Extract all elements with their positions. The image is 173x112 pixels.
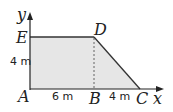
point-label-B: B [88,89,101,108]
dimension-AE: 4 m [10,55,31,68]
x-axis-label: x [153,89,162,108]
point-label-C: C [136,89,148,108]
shaded-trapezoid [30,37,140,89]
dimension-BC: 4 m [109,90,130,103]
point-label-E: E [15,28,28,47]
y-axis-arrow-icon [27,12,33,20]
trapezoid-diagram: y x E D A B C 4 m 6 m 4 m [0,0,173,112]
y-axis-label: y [16,5,27,24]
dimension-AB: 6 m [52,90,73,103]
point-label-D: D [93,20,107,39]
point-label-A: A [16,87,30,106]
